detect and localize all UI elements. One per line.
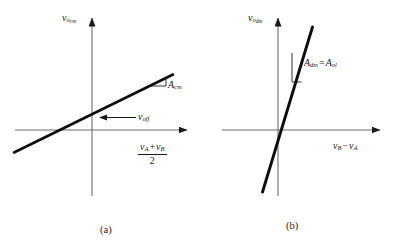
- panel-a-caption: (a): [100, 224, 112, 235]
- figure-container: vocm Acm voff vA+vB 2 (a): [0, 0, 393, 246]
- panel-b-graphics: [200, 0, 393, 246]
- panel-b-x-axis-label: vB−vA: [333, 141, 358, 152]
- panel-b-y-axis-label: vodm: [248, 13, 262, 25]
- panel-a-slope-label: Acm: [168, 80, 182, 91]
- panel-a-x-axis-label: vA+vB 2: [138, 142, 167, 167]
- panel-b: vodm Adm=Aol vB−vA (b): [200, 0, 393, 246]
- panel-b-slope-label: Adm=Aol: [304, 58, 337, 69]
- panel-a-graphics: [0, 0, 200, 246]
- panel-a-y-axis-label: vocm: [62, 13, 76, 25]
- panel-a-offset-label: voff: [138, 112, 149, 123]
- panel-a: vocm Acm voff vA+vB 2 (a): [0, 0, 200, 246]
- panel-b-caption: (b): [286, 220, 298, 231]
- panel-b-characteristic-line: [263, 27, 313, 192]
- panel-a-voff-arrow-head: [99, 114, 107, 120]
